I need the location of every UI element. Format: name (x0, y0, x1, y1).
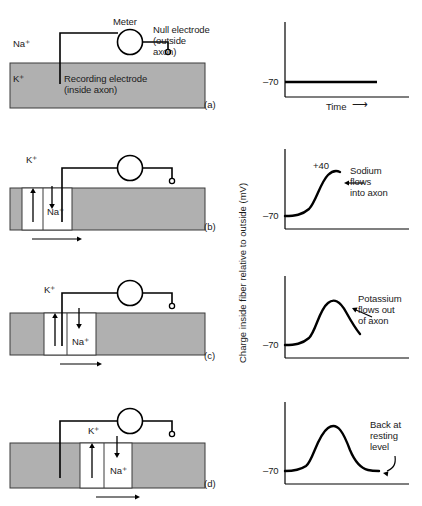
peak-tick-b: +40 (313, 160, 329, 171)
sodium-label-a: Na⁺ (13, 38, 30, 49)
meter-icon (118, 281, 143, 306)
null-electrode-tip-icon (169, 303, 174, 308)
resting-annotation-arrow (387, 456, 395, 471)
resting-tick-d: –70 (263, 465, 279, 476)
meter-icon (118, 156, 143, 181)
potassium-label-b: K⁺ (26, 154, 37, 165)
axon-body (10, 313, 205, 355)
resting-annotation-arrowhead (383, 471, 388, 476)
panel-c-graph (262, 272, 422, 384)
meter-icon (118, 409, 143, 434)
null-electrode-tip-icon (169, 431, 174, 436)
sodium-label-b: Na⁺ (47, 206, 64, 217)
panel-b-graph (262, 145, 422, 255)
panel-d-graph (262, 398, 422, 506)
sodium-label-c: Na⁺ (72, 336, 89, 347)
active-zone (44, 313, 96, 355)
potassium-label-c: K⁺ (44, 284, 55, 295)
panel-letter-b: (b) (204, 221, 216, 232)
trace-c-repolarization (285, 301, 360, 345)
resting-tick-a: –70 (263, 76, 279, 87)
panel-letter-c: (c) (204, 350, 215, 361)
resting-tick-c: –70 (263, 339, 279, 350)
panel-letter-d: (d) (204, 478, 216, 489)
propagation-arrowhead (77, 236, 82, 241)
null-electrode-wire (143, 421, 173, 431)
panel-c-diagram (0, 268, 215, 383)
meter-icon (118, 30, 143, 55)
potassium-label-d: K⁺ (88, 425, 99, 436)
sodium-annotation-b: Sodium flows into axon (350, 165, 388, 198)
trace-d-full-spike (285, 426, 379, 471)
recording-electrode-label: Recording electrode (inside axon) (64, 73, 147, 95)
sodium-annotation-arrowhead (344, 180, 349, 185)
panel-d-diagram (0, 396, 215, 506)
meter-label: Meter (113, 16, 137, 27)
null-electrode-wire (143, 293, 173, 303)
null-electrode-tip-icon (169, 178, 174, 183)
panel-a-diagram (0, 0, 215, 120)
propagation-arrowhead (135, 494, 140, 499)
propagation-arrowhead (97, 361, 102, 366)
null-electrode-wire (143, 168, 173, 178)
resting-tick-b: –70 (263, 210, 279, 221)
panel-letter-a: (a) (204, 99, 216, 110)
trace-b-depolarization (285, 171, 340, 216)
x-axis-label-a: Time (326, 101, 346, 112)
potassium-annotation-c: Potassium flows out of axon (358, 293, 401, 326)
potassium-label-a: K⁺ (13, 73, 24, 84)
null-electrode-label: Null electrode (outside axon) (153, 24, 210, 57)
resting-annotation-d: Back at resting level (370, 419, 401, 452)
action-potential-figure: Charge inside fiber relative to outside … (0, 0, 422, 506)
x-axis-arrow-a: ⟶ (352, 99, 368, 110)
sodium-label-d: Na⁺ (110, 465, 127, 476)
y-axis-label: Charge inside fiber relative to outside … (237, 183, 248, 363)
